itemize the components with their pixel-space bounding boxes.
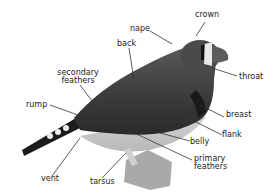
label-vent: vent <box>41 175 59 183</box>
label-nape: nape <box>130 25 150 33</box>
label-belly: belly <box>190 138 209 146</box>
label-primary-line2: feathers <box>194 163 227 171</box>
label-back: back <box>117 40 136 48</box>
label-throat: throat <box>239 73 263 81</box>
label-breast: breast <box>226 111 251 119</box>
label-secondary-feathers: secondary feathers <box>56 69 100 85</box>
label-tarsus: tarsus <box>90 178 115 186</box>
label-secondary-line2: feathers <box>56 77 100 85</box>
label-primary-feathers: primary feathers <box>194 155 227 171</box>
beak <box>212 46 228 63</box>
label-flank: flank <box>222 131 242 139</box>
label-rump: rump <box>26 101 47 109</box>
label-crown: crown <box>195 11 219 19</box>
